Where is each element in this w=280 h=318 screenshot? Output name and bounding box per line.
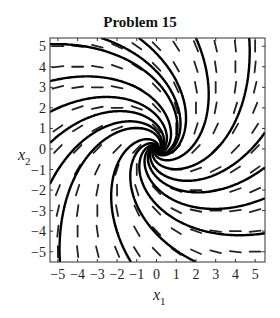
x-tick-label: 4 [232,267,239,282]
x-tick-label: −4 [70,267,85,282]
x-tick-label: 0 [153,267,160,282]
y-tick-label: −5 [31,245,46,260]
y-tick-label: 1 [39,121,46,136]
x-tick-label: −1 [129,267,144,282]
x-tick-label: 2 [192,267,199,282]
x-axis-label: x1 [152,286,166,307]
y-tick-label: 5 [39,39,46,54]
x-tick-label: −3 [90,267,105,282]
y-tick-label: −4 [31,224,46,239]
y-tick-label: 2 [39,101,46,116]
y-axis-label: x2 [17,146,31,167]
y-tick-label: 3 [39,80,46,95]
y-tick-label: 4 [39,60,46,75]
y-tick-label: 0 [39,142,46,157]
phase-portrait-plot: −5−4−3−2−1012345 −5−4−3−2−1012345 x1 x2 [0,0,280,318]
trajectories [50,38,265,262]
x-tick-label: 5 [252,267,259,282]
y-tick-label: −3 [31,204,46,219]
x-tick-label: −2 [110,267,125,282]
x-tick-label: 1 [173,267,180,282]
y-tick-label: −1 [31,163,46,178]
x-tick-label: 3 [212,267,219,282]
y-tick-label: −2 [31,183,46,198]
x-tick-label: −5 [50,267,65,282]
